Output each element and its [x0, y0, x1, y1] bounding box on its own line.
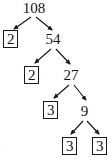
node-value-label: 27 — [62, 68, 80, 83]
tree-edge-arrow — [71, 121, 83, 134]
tree-edge-arrow — [14, 17, 31, 29]
tree-edge-arrow — [36, 17, 52, 30]
factor-tree-diagram: 1082542273933 — [0, 0, 112, 162]
node-value-label: 3 — [47, 103, 54, 118]
node-value-label: 3 — [96, 139, 103, 154]
composite-node: 9 — [79, 104, 90, 118]
tree-edge-arrow — [35, 49, 51, 63]
tree-edge-arrow — [87, 121, 99, 134]
tree-edge-arrow — [54, 85, 69, 98]
prime-factor-node: 2 — [3, 30, 18, 48]
prime-factor-node: 3 — [92, 137, 107, 155]
node-value-label: 2 — [28, 68, 35, 83]
composite-node: 54 — [44, 32, 62, 46]
node-value-label: 2 — [7, 32, 14, 47]
node-value-label: 54 — [44, 32, 62, 47]
node-value-label: 108 — [21, 1, 47, 16]
node-value-label: 9 — [79, 104, 90, 119]
prime-factor-node: 3 — [43, 101, 58, 119]
composite-node: 108 — [21, 1, 47, 15]
tree-edge-arrow — [74, 85, 86, 100]
node-value-label: 3 — [66, 139, 73, 154]
prime-factor-node: 3 — [62, 137, 77, 155]
tree-edge-arrow — [56, 49, 70, 64]
prime-factor-node: 2 — [24, 66, 39, 84]
composite-node: 27 — [62, 68, 80, 82]
